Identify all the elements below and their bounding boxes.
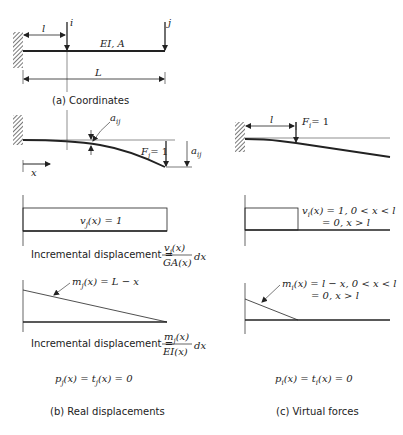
- caption-a: (a) Coordinates: [52, 95, 129, 106]
- aij-label: aij: [110, 112, 121, 126]
- shear-diagram-block: [245, 208, 298, 230]
- moment-incr-suffix: dx: [194, 340, 206, 351]
- shear-label-line2: = 0, x > l: [322, 217, 370, 228]
- dim-l-label: l: [42, 23, 45, 34]
- ajj-label: aij: [191, 145, 202, 159]
- x-axis-label: x: [31, 167, 37, 178]
- panel-a-coordinates: l i j EI, A L (a) Coordinates: [13, 17, 171, 106]
- shear-incr-suffix: dx: [194, 251, 206, 262]
- shear-incr-denominator: GA(x): [163, 257, 192, 268]
- panel-b-loads-equation: pj(x) = tj(x) = 0: [55, 373, 133, 387]
- moment-leader: [54, 283, 70, 295]
- panel-c-moment-diagram: mi(x) = l − x, 0 < x < l = 0, x > l: [245, 278, 397, 334]
- point-j-label: j: [166, 17, 171, 28]
- panel-b-shear-diagram: vj(x) = 1 Incremental displacement = vj(…: [23, 195, 206, 268]
- moment-leader: [262, 285, 280, 302]
- fixed-support-wall: [13, 115, 23, 145]
- force-fi-label: Fi= 1: [301, 116, 329, 130]
- fixed-support-wall: [13, 32, 23, 68]
- moment-incr-denominator: EI(x): [162, 346, 188, 357]
- moment-label: mj(x) = L − x: [72, 276, 139, 290]
- moment-diagonal: [23, 290, 167, 322]
- caption-c: (c) Virtual forces: [276, 406, 359, 417]
- panel-b-moment-diagram: mj(x) = L − x Incremental displacement =…: [23, 276, 206, 357]
- deflected-shape: [245, 139, 390, 157]
- moment-diagonal: [245, 299, 298, 320]
- panel-c-loads-equation: pi(x) = ti(x) = 0: [275, 373, 353, 387]
- panel-c-deflected-beam: l Fi= 1: [235, 114, 390, 157]
- shear-label: vj(x) = 1: [80, 215, 122, 229]
- dim-L-label: L: [94, 67, 102, 78]
- panel-b-deflected-beam: aij Fj= 1 aij x: [13, 110, 202, 178]
- beam-virtual-work-diagram: l i j EI, A L (a) Coordinates aij Fj= 1 …: [0, 0, 403, 435]
- dim-l-label: l: [270, 114, 273, 125]
- shear-incr-prefix: Incremental displacement =: [31, 249, 173, 260]
- caption-b: (b) Real displacements: [50, 406, 165, 417]
- moment-incr-prefix: Incremental displacement =: [31, 338, 173, 349]
- beam-properties-label: EI, A: [99, 38, 125, 49]
- point-i-label: i: [70, 17, 73, 28]
- panel-c-shear-diagram: vi(x) = 1, 0 < x < l = 0, x > l: [245, 195, 395, 246]
- moment-label-line2: = 0, x > l: [311, 290, 359, 301]
- fixed-support-wall: [235, 122, 245, 152]
- aij-leader: [93, 122, 110, 141]
